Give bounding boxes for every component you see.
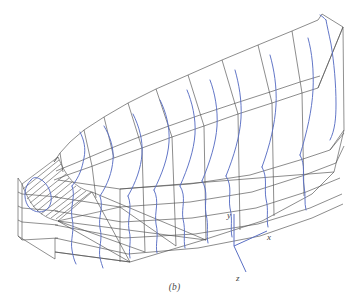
contour-lines <box>25 15 336 268</box>
front-face-strata <box>55 93 343 262</box>
axis-z-arm <box>234 246 246 272</box>
axis-label-x: x <box>266 232 271 242</box>
axis-label-y: y <box>226 210 231 220</box>
figure-container: y x z (b) <box>0 0 349 304</box>
axis-x-arm <box>234 231 267 246</box>
coordinate-triad: y x z <box>226 210 271 283</box>
figure-caption: (b) <box>0 282 349 292</box>
right-end-face-mesh <box>318 27 344 172</box>
fe-mesh-figure: y x z <box>0 0 349 304</box>
